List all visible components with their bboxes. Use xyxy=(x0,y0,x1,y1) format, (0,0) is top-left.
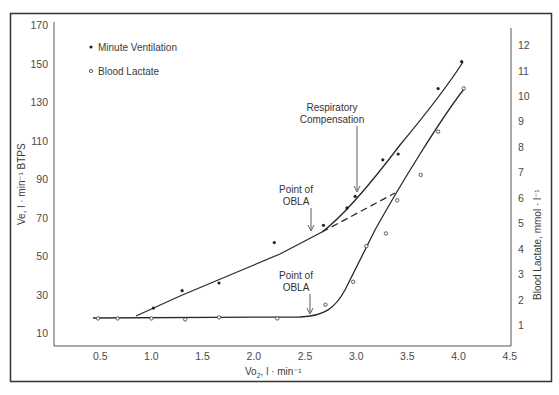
ventilation-point xyxy=(181,289,184,292)
x-tick-label: 4.0 xyxy=(451,350,466,362)
legend-item-ventilation: Minute Ventilation xyxy=(98,42,177,53)
ventilation-point xyxy=(397,152,400,155)
obla-lower-label-2: OBLA xyxy=(283,282,310,293)
x-tick-label: 2.5 xyxy=(298,350,313,362)
x-tick-label: 0.5 xyxy=(93,350,108,362)
lactate-point xyxy=(217,316,220,319)
lactate-data-points xyxy=(96,87,465,321)
y-tick-label: 10 xyxy=(36,327,48,339)
y2-tick-label: 10 xyxy=(518,90,530,102)
lactate-curve xyxy=(93,89,464,318)
x-tick-label: 4.5 xyxy=(502,350,517,362)
x-tick-label: 1.5 xyxy=(195,350,210,362)
y-tick-label: 170 xyxy=(30,19,48,31)
y2-tick-label: 9 xyxy=(518,115,524,127)
resp-comp-label-1: Respiratory xyxy=(306,102,357,113)
lactate-point xyxy=(276,317,279,320)
x-tick-label: 3.0 xyxy=(349,350,364,362)
chart-canvas: 1030507090110130150170 123456789101112 0… xyxy=(0,0,559,395)
lactate-point xyxy=(324,303,327,306)
legend: Minute Ventilation Blood Lactate xyxy=(89,42,177,77)
y2-tick-label: 12 xyxy=(518,39,530,51)
ventilation-point xyxy=(152,306,155,309)
obla-upper-label-2: OBLA xyxy=(283,196,310,207)
ventilation-point xyxy=(217,281,220,284)
ventilation-point xyxy=(322,224,325,227)
lactate-point xyxy=(351,280,354,283)
x-tick-labels: 0.51.01.52.02.53.03.54.04.5 xyxy=(93,350,517,362)
y2-tick-label: 7 xyxy=(518,166,524,178)
ventilation-point xyxy=(437,87,440,90)
ventilation-extrapolation-dashed xyxy=(322,193,395,232)
x-axis-label: Vo2, l · min⁻¹ xyxy=(245,366,302,379)
y-tick-label: 70 xyxy=(36,212,48,224)
resp-comp-label-2: Compensation xyxy=(300,114,364,125)
y2-tick-label: 11 xyxy=(518,65,529,77)
y2-tick-label: 2 xyxy=(518,294,524,306)
obla-upper-label-1: Point of xyxy=(279,184,313,195)
y2-tick-label: 8 xyxy=(518,141,524,153)
ventilation-point xyxy=(354,195,357,198)
lactate-point xyxy=(384,232,387,235)
lactate-point xyxy=(419,173,422,176)
obla-lower-label-1: Point of xyxy=(279,270,313,281)
legend-open-circle-icon xyxy=(89,69,92,72)
ventilation-point xyxy=(460,60,463,63)
y-tick-label: 130 xyxy=(30,96,48,108)
x-tick-label: 2.0 xyxy=(246,350,261,362)
ventilation-point xyxy=(381,158,384,161)
lactate-point xyxy=(183,318,186,321)
lactate-point xyxy=(436,130,439,133)
lactate-point xyxy=(116,317,119,320)
y2-tick-label: 6 xyxy=(518,192,524,204)
ventilation-point xyxy=(345,206,348,209)
chart-frame xyxy=(11,14,552,382)
y-tick-label: 150 xyxy=(30,58,48,70)
y2-tick-label: 4 xyxy=(518,243,524,255)
lactate-point xyxy=(96,317,99,320)
lactate-point xyxy=(395,199,398,202)
y-tick-label: 90 xyxy=(36,173,48,185)
x-tick-label: 3.5 xyxy=(400,350,415,362)
y-tick-label: 110 xyxy=(31,135,48,147)
y2-tick-label: 1 xyxy=(518,319,524,331)
left-axis-label: Ve, l · min⁻¹ BTPS xyxy=(16,143,27,225)
legend-item-lactate: Blood Lactate xyxy=(98,66,160,77)
right-axis-label: Blood Lactate, mmol · l⁻¹ xyxy=(532,189,543,300)
lactate-point xyxy=(150,317,153,320)
right-y-tick-labels: 123456789101112 xyxy=(518,39,530,331)
left-y-tick-labels: 1030507090110130150170 xyxy=(30,19,48,339)
y-tick-label: 50 xyxy=(36,250,48,262)
lactate-point xyxy=(462,87,465,90)
lactate-point xyxy=(365,244,368,247)
y2-tick-label: 5 xyxy=(518,217,524,229)
y-tick-label: 30 xyxy=(36,289,48,301)
ventilation-point xyxy=(273,241,276,244)
y2-tick-label: 3 xyxy=(518,268,524,280)
x-tick-label: 1.0 xyxy=(144,350,159,362)
legend-filled-dot-icon xyxy=(89,45,92,48)
